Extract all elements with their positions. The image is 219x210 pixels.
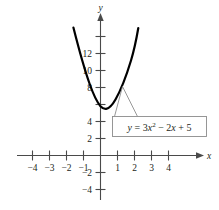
x-axis-label: x xyxy=(206,151,212,161)
x-tick-label-minus4: −4 xyxy=(27,163,37,173)
x-tick-label-4: 4 xyxy=(166,163,171,173)
y-tick-label-2: 2 xyxy=(87,134,92,144)
y-axis-label: y xyxy=(97,3,103,13)
x-tick-label-1: 1 xyxy=(115,163,120,173)
x-tick-label-2: 2 xyxy=(132,163,137,173)
figure-container: −4 −3 −2 −1 1 2 3 4 −4 −2 2 4 8 10 12 x … xyxy=(0,0,219,210)
y-tick-label-12: 12 xyxy=(83,49,93,59)
equation-label: y = 3x2 − 2x + 5 xyxy=(127,121,192,133)
parabola-graph: −4 −3 −2 −1 1 2 3 4 −4 −2 2 4 8 10 12 x … xyxy=(0,0,219,210)
y-tick-label-minus2: −2 xyxy=(82,168,92,178)
callout-leader-line xyxy=(115,87,138,117)
y-tick-label-4: 4 xyxy=(87,117,92,127)
x-tick-label-minus3: −3 xyxy=(44,163,54,173)
equation-constant: 5 xyxy=(186,122,191,133)
x-tick-label-minus2: −2 xyxy=(61,163,71,173)
x-tick-label-3: 3 xyxy=(149,163,154,173)
y-tick-label-minus4: −4 xyxy=(82,185,92,195)
x-axis xyxy=(17,152,204,158)
